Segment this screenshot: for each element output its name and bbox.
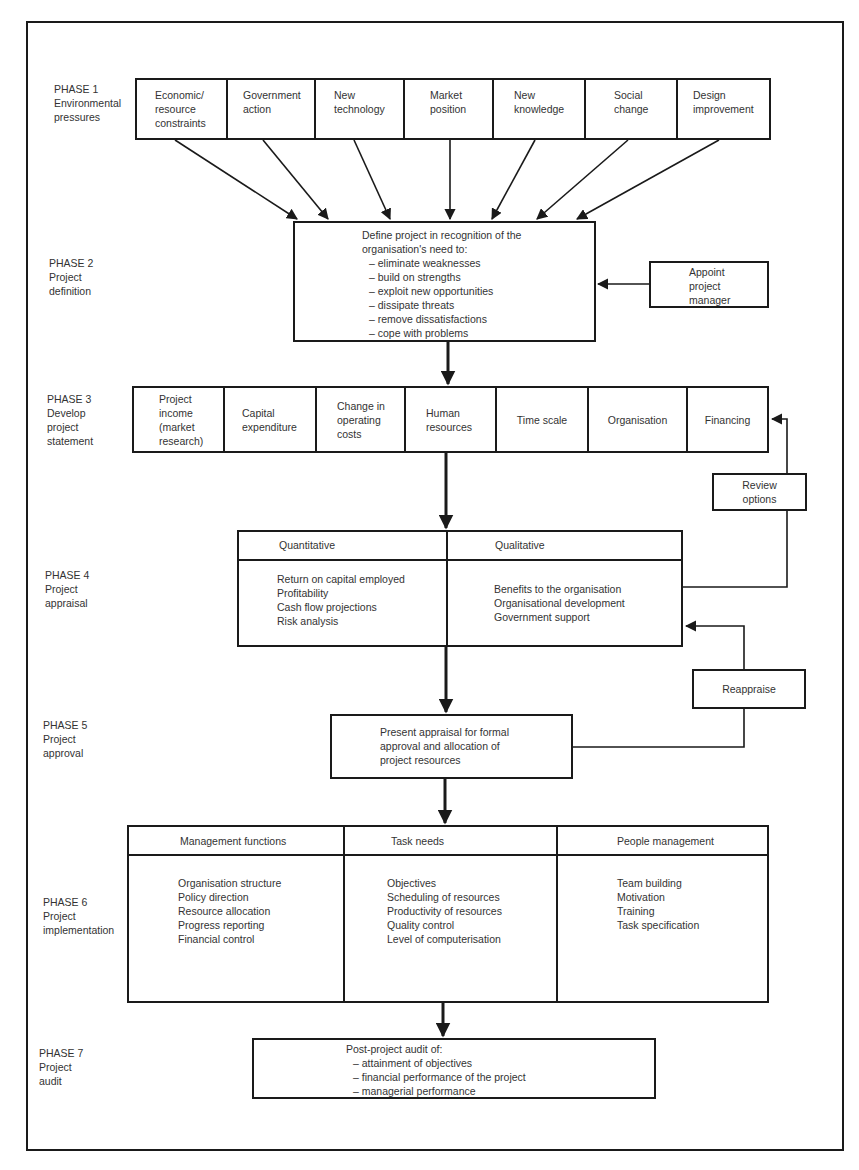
- phase-number: PHASE 7: [39, 1046, 83, 1060]
- cell-text: income: [159, 406, 203, 420]
- phase-title-line: Project: [43, 909, 114, 923]
- list-item: Organisation structure: [178, 876, 281, 890]
- pressure-government: Government action: [228, 80, 316, 138]
- phase-number: PHASE 3: [47, 392, 93, 406]
- cell-text: change: [614, 102, 648, 116]
- pressure-technology: New technology: [316, 80, 405, 138]
- statement-capital-expenditure: Capital expenditure: [225, 388, 317, 451]
- pressure-knowledge: New knowledge: [494, 80, 586, 138]
- box-text: manager: [689, 293, 730, 307]
- phase-1-label: PHASE 1 Environmental pressures: [54, 82, 121, 124]
- review-options-box: Review options: [712, 473, 807, 511]
- list-item: Return on capital employed: [277, 572, 405, 586]
- statement-financing: Financing: [688, 388, 767, 451]
- header-quantitative: Quantitative: [279, 538, 335, 552]
- phase-3-label: PHASE 3 Develop project statement: [47, 392, 93, 448]
- definition-intro: Define project in recognition of the: [362, 228, 521, 242]
- phase-5-label: PHASE 5 Project approval: [43, 718, 87, 760]
- cell-text: expenditure: [242, 420, 297, 434]
- statement-time-scale: Time scale: [497, 388, 589, 451]
- list-item: Productivity of resources: [387, 904, 502, 918]
- phase-number: PHASE 2: [49, 256, 93, 270]
- list-item: Task specification: [617, 918, 699, 932]
- cell-text: action: [243, 102, 301, 116]
- phase-title-line: Project: [39, 1060, 83, 1074]
- phase-number: PHASE 5: [43, 718, 87, 732]
- list-item: Training: [617, 904, 699, 918]
- pressure-design: Design improvement: [678, 80, 769, 138]
- pressure-social: Social change: [586, 80, 678, 138]
- cell-text: improvement: [693, 102, 754, 116]
- approval-text: Present appraisal for formal: [380, 725, 509, 739]
- phase-5-approval-box: Present appraisal for formal approval an…: [330, 714, 573, 779]
- phase-4-label: PHASE 4 Project appraisal: [45, 568, 89, 610]
- cell-text: Time scale: [497, 413, 587, 427]
- cell-text: Design: [693, 88, 754, 102]
- cell-text: position: [430, 102, 466, 116]
- phase-3-statement-row: Project income (market research) Capital…: [132, 386, 769, 453]
- need-item: – eliminate weaknesses: [369, 256, 521, 270]
- list-item: Team building: [617, 876, 699, 890]
- phase-title-line: Project: [45, 582, 89, 596]
- audit-item: – attainment of objectives: [353, 1056, 526, 1070]
- list-item: Objectives: [387, 876, 502, 890]
- statement-human-resources: Human resources: [406, 388, 497, 451]
- phase-title-line: Project: [43, 732, 87, 746]
- cell-text: costs: [337, 427, 385, 441]
- phase-6-implementation-box: Management functions Task needs People m…: [127, 825, 769, 1003]
- cell-text: operating: [337, 413, 385, 427]
- phase-number: PHASE 1: [54, 82, 121, 96]
- cell-text: resources: [426, 420, 472, 434]
- phase-title-line: Develop: [47, 406, 93, 420]
- list-item: Level of computerisation: [387, 932, 502, 946]
- phase-title-line: Environmental: [54, 96, 121, 110]
- list-item: Resource allocation: [178, 904, 281, 918]
- cell-text: Financing: [688, 413, 767, 427]
- phase-title-line: Project: [49, 270, 93, 284]
- list-item: Quality control: [387, 918, 502, 932]
- list-item: Financial control: [178, 932, 281, 946]
- pressure-economic: Economic/ resource constraints: [137, 80, 228, 138]
- audit-intro: Post-project audit of:: [346, 1042, 526, 1056]
- cell-text: Human: [426, 406, 472, 420]
- phase-title-line: definition: [49, 284, 93, 298]
- cell-text: technology: [334, 102, 385, 116]
- box-text: Reappraise: [694, 682, 804, 696]
- statement-organisation: Organisation: [589, 388, 688, 451]
- cell-text: (market: [159, 420, 203, 434]
- list-item: Risk analysis: [277, 614, 405, 628]
- pressure-market: Market position: [405, 80, 494, 138]
- audit-item: – managerial performance: [353, 1084, 526, 1098]
- list-item: Government support: [494, 610, 625, 624]
- box-text: options: [714, 492, 805, 506]
- cell-text: Market: [430, 88, 466, 102]
- cell-text: resource: [155, 102, 206, 116]
- cell-text: Economic/: [155, 88, 206, 102]
- box-text: Review: [714, 478, 805, 492]
- phase-7-label: PHASE 7 Project audit: [39, 1046, 83, 1088]
- phase-title-line: implementation: [43, 923, 114, 937]
- cell-text: Social: [614, 88, 648, 102]
- phase-title-line: project: [47, 420, 93, 434]
- phase-title-line: audit: [39, 1074, 83, 1088]
- need-item: – exploit new opportunities: [369, 284, 521, 298]
- list-item: Scheduling of resources: [387, 890, 502, 904]
- approval-text: approval and allocation of: [380, 739, 509, 753]
- list-item: Cash flow projections: [277, 600, 405, 614]
- list-item: Benefits to the organisation: [494, 582, 625, 596]
- need-item: – build on strengths: [369, 270, 521, 284]
- list-item: Progress reporting: [178, 918, 281, 932]
- phase-4-appraisal-box: Quantitative Qualitative Return on capit…: [237, 530, 683, 647]
- definition-intro: organisation's need to:: [362, 242, 521, 256]
- need-item: – cope with problems: [369, 326, 521, 340]
- cell-text: New: [514, 88, 564, 102]
- audit-item: – financial performance of the project: [353, 1070, 526, 1084]
- column-divider: [446, 532, 448, 645]
- phase-title-line: statement: [47, 434, 93, 448]
- phase-6-label: PHASE 6 Project implementation: [43, 895, 114, 937]
- header-qualitative: Qualitative: [495, 538, 545, 552]
- approval-text: project resources: [380, 753, 509, 767]
- need-item: – remove dissatisfactions: [369, 312, 521, 326]
- box-text: Appoint: [689, 265, 730, 279]
- phase-title-line: pressures: [54, 110, 121, 124]
